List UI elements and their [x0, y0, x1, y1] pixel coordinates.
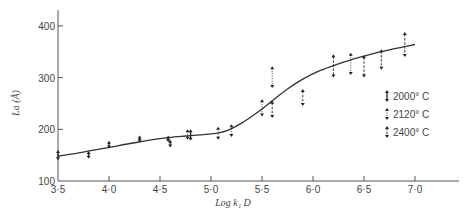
legend-marker-2400	[385, 126, 389, 138]
error-bar-2400	[403, 32, 407, 57]
error-bar-2000	[87, 151, 91, 159]
x-axis-title: Log k₁ D	[214, 197, 251, 208]
x-tick-label: 5·5	[255, 184, 270, 195]
legend: 2000° C2120° C2400° C	[385, 90, 429, 138]
x-tick-label: 4·5	[153, 184, 168, 195]
x-tick-label: 7·0	[408, 184, 423, 195]
error-bar-2400	[301, 89, 305, 106]
x-tick-label: 3·5	[51, 184, 66, 195]
error-bar-2120	[229, 124, 233, 137]
legend-marker-2000	[385, 90, 389, 102]
axes: 100200300400 3·54·04·55·05·56·06·57·0	[38, 10, 459, 195]
x-ticks: 3·54·04·55·05·56·06·57·0	[51, 176, 423, 195]
y-tick-label: 200	[38, 124, 55, 135]
data-points	[56, 32, 407, 160]
legend-label: 2000° C	[393, 91, 429, 102]
x-tick-label: 5·0	[204, 184, 219, 195]
x-tick-label: 6·5	[357, 184, 372, 195]
x-tick-label: 4·0	[102, 184, 117, 195]
legend-label: 2400° C	[393, 127, 429, 138]
x-tick-label: 6·0	[306, 184, 321, 195]
y-tick-label: 400	[38, 21, 55, 32]
error-bar-2000	[56, 150, 60, 160]
error-bar-2120	[270, 66, 274, 88]
error-bar-2120	[349, 53, 353, 75]
y-ticks: 100200300400	[38, 21, 63, 187]
fit-curve	[58, 45, 415, 157]
y-axis-title: La (Å)	[10, 89, 22, 117]
y-tick-label: 300	[38, 73, 55, 84]
chart: 100200300400 3·54·04·55·05·56·06·57·0 Lo…	[0, 0, 471, 218]
error-bar-2400	[270, 101, 274, 118]
legend-marker-2120	[385, 108, 389, 120]
error-bar-2400	[362, 55, 366, 77]
legend-label: 2120° C	[393, 109, 429, 120]
